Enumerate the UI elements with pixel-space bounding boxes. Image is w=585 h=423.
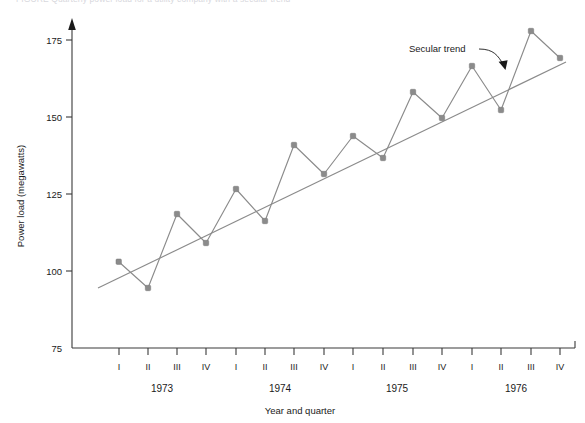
y-tick-label-150: 150	[46, 112, 62, 123]
data-point-marker	[380, 155, 385, 160]
data-point-marker	[469, 63, 474, 68]
secular-trend-annotation: Secular trend	[409, 43, 508, 70]
x-quarter-label-8: IV	[320, 362, 329, 372]
x-quarter-label-2: II	[145, 362, 150, 372]
y-axis-title: Power load (megawatts)	[15, 145, 26, 247]
x-quarter-label-5: I	[235, 362, 238, 372]
data-point-marker	[291, 142, 296, 147]
data-point-marker	[557, 55, 562, 60]
data-point-marker	[350, 133, 355, 138]
y-axis: 175 150 125 100 75 Power load (megawatts…	[15, 18, 76, 354]
x-year-label-1976: 1976	[505, 383, 528, 394]
power-load-markers	[116, 28, 563, 290]
data-point-marker	[233, 186, 238, 191]
data-point-marker	[321, 171, 326, 176]
y-tick-label-100: 100	[46, 266, 62, 277]
x-quarter-label-12: IV	[438, 362, 447, 372]
x-quarter-label-6: II	[262, 362, 267, 372]
x-quarter-label-3: III	[173, 362, 181, 372]
secular-trend-line	[98, 62, 566, 288]
data-point-marker	[498, 107, 503, 112]
y-tick-label-175: 175	[46, 35, 62, 46]
power-load-line-chart: 175 150 125 100 75 Power load (megawatts…	[0, 0, 585, 423]
x-quarter-label-14: II	[498, 362, 503, 372]
power-load-series-line	[119, 31, 560, 288]
data-point-marker	[439, 115, 444, 120]
y-axis-arrowhead	[68, 18, 76, 30]
data-point-marker	[528, 28, 533, 33]
data-point-marker	[145, 285, 150, 290]
x-quarter-label-11: III	[409, 362, 417, 372]
y-tick-label-125: 125	[46, 189, 62, 200]
data-point-marker	[410, 89, 415, 94]
x-quarter-label-1: I	[118, 362, 121, 372]
x-year-label-1973: 1973	[151, 383, 174, 394]
x-axis-title: Year and quarter	[265, 405, 335, 416]
x-year-label-1974: 1974	[269, 383, 292, 394]
x-quarter-label-4: IV	[202, 362, 211, 372]
x-quarter-label-7: III	[290, 362, 298, 372]
x-axis: I II III IV I II III IV I II III IV I II…	[72, 341, 575, 416]
secular-trend-annotation-label: Secular trend	[409, 43, 466, 54]
annotation-arrowhead-icon	[499, 60, 508, 70]
x-quarter-label-16: IV	[556, 362, 565, 372]
x-quarter-label-9: I	[352, 362, 355, 372]
figure-page: FIGURE Quarterly power load for a utilit…	[0, 0, 585, 423]
y-tick-label-75: 75	[51, 343, 62, 354]
data-point-marker	[262, 218, 267, 223]
x-quarter-label-15: III	[527, 362, 535, 372]
x-quarter-label-13: I	[471, 362, 474, 372]
data-point-marker	[203, 240, 208, 245]
data-point-marker	[174, 211, 179, 216]
x-quarter-label-10: II	[380, 362, 385, 372]
data-point-marker	[116, 259, 121, 264]
x-year-label-1975: 1975	[386, 383, 409, 394]
